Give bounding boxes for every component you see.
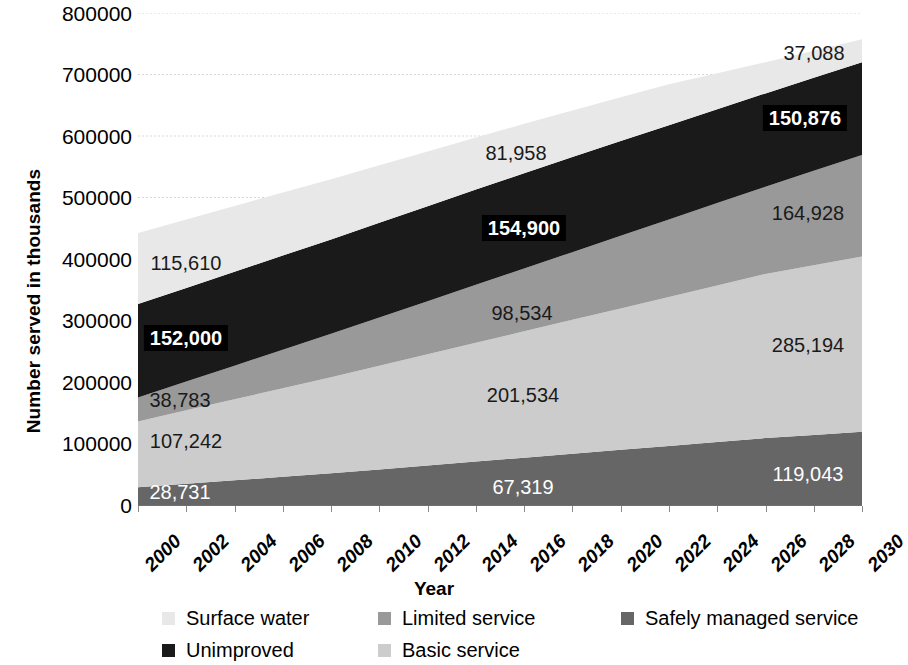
legend-swatch-icon <box>621 612 634 625</box>
x-tick-mark <box>862 506 863 512</box>
x-tick-mark <box>235 506 236 512</box>
data-label-safely-managed-2015: 67,319 <box>492 477 553 497</box>
x-tick-mark <box>138 506 139 512</box>
legend-swatch-icon <box>378 644 391 657</box>
y-tick-label: 100000 <box>28 433 132 454</box>
legend-item-label: Surface water <box>186 608 309 628</box>
data-label-limited-service-2015: 98,534 <box>491 303 552 323</box>
legend-swatch-icon <box>162 644 175 657</box>
data-label-surface-water-2030: 37,088 <box>783 43 844 63</box>
x-tick-mark <box>186 506 187 512</box>
data-label-safely-managed-2000: 28,731 <box>149 482 210 502</box>
x-axis-title: Year <box>0 578 868 600</box>
x-tick-mark <box>766 506 767 512</box>
legend-swatch-icon <box>162 612 175 625</box>
legend-item-label: Basic service <box>402 640 520 660</box>
y-axis-tick-labels: 800000 700000 600000 500000 400000 30000… <box>28 0 132 520</box>
data-label-basic-service-2030: 285,194 <box>772 335 844 355</box>
y-tick-label: 0 <box>28 495 132 516</box>
x-tick-mark <box>717 506 718 512</box>
x-tick-mark <box>621 506 622 512</box>
y-tick-label: 800000 <box>28 3 132 24</box>
legend-item-label: Unimproved <box>186 640 294 660</box>
y-tick-label: 700000 <box>28 64 132 85</box>
legend-item-limited-service[interactable]: Limited service <box>378 608 535 628</box>
x-axis-tick-labels: 2000 2002 2004 2006 2008 2010 2012 2014 … <box>138 513 862 575</box>
data-label-surface-water-2000: 115,610 <box>151 253 222 273</box>
legend-item-basic-service[interactable]: Basic service <box>378 640 520 660</box>
legend-item-surface-water[interactable]: Surface water <box>162 608 309 628</box>
y-tick-label: 200000 <box>28 372 132 393</box>
data-label-limited-service-2000: 38,783 <box>149 390 210 410</box>
x-axis-ticks <box>138 506 862 513</box>
plot-area <box>138 13 862 505</box>
legend-item-label: Limited service <box>402 608 535 628</box>
data-label-unimproved-2000: 152,000 <box>144 325 228 351</box>
x-tick-mark <box>283 506 284 512</box>
data-label-safely-managed-2030: 119,043 <box>773 464 844 484</box>
data-label-unimproved-2015: 154,900 <box>482 215 566 241</box>
y-tick-label: 500000 <box>28 187 132 208</box>
y-tick-label: 300000 <box>28 310 132 331</box>
data-label-basic-service-2000: 107,242 <box>150 431 222 451</box>
y-tick-label: 400000 <box>28 249 132 270</box>
x-tick-mark <box>379 506 380 512</box>
data-label-surface-water-2015: 81,958 <box>485 143 546 163</box>
chart-legend: Surface water Limited service Safely man… <box>138 604 868 664</box>
x-tick-mark <box>669 506 670 512</box>
data-label-unimproved-2030: 150,876 <box>763 105 847 131</box>
x-tick-mark <box>428 506 429 512</box>
y-tick-label: 600000 <box>28 126 132 147</box>
legend-item-safely-managed-service[interactable]: Safely managed service <box>621 608 858 628</box>
area-series-canvas <box>138 13 862 505</box>
legend-swatch-icon <box>378 612 391 625</box>
x-tick-mark <box>814 506 815 512</box>
x-tick-mark <box>524 506 525 512</box>
data-label-limited-service-2030: 164,928 <box>772 203 844 223</box>
x-tick-mark <box>476 506 477 512</box>
x-tick-mark <box>331 506 332 512</box>
x-tick-mark <box>572 506 573 512</box>
data-label-basic-service-2015: 201,534 <box>487 385 559 405</box>
legend-item-unimproved[interactable]: Unimproved <box>162 640 294 660</box>
legend-item-label: Safely managed service <box>645 608 858 628</box>
